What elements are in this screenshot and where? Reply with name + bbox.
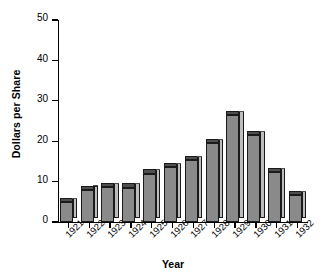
bar-top-face	[226, 111, 239, 115]
plot-area: 01020304050 1921192219231924192519261927…	[58, 20, 308, 222]
y-tick: 50	[52, 19, 58, 20]
y-tick-label: 0	[42, 214, 48, 225]
bar-top-edge	[176, 163, 181, 164]
bar-top-edge	[135, 183, 140, 184]
bar-front-face	[122, 188, 135, 222]
y-tick: 30	[52, 100, 58, 101]
bar-top-face	[268, 168, 281, 172]
bar	[289, 191, 306, 222]
bar	[226, 111, 243, 222]
bar-top-edge	[114, 183, 119, 184]
bar	[206, 139, 223, 222]
bar-front-face	[185, 160, 198, 222]
x-axis-title: Year	[38, 258, 308, 270]
bar	[101, 183, 118, 222]
bar-top-face	[164, 163, 177, 167]
bar	[122, 183, 139, 222]
bar-top-face	[143, 169, 156, 173]
bar-top-edge	[260, 131, 265, 132]
bar-front-face	[101, 187, 114, 222]
bar	[185, 156, 202, 222]
bar-side-face	[281, 168, 285, 218]
bar-front-face	[81, 190, 94, 222]
bar-top-edge	[197, 156, 202, 157]
bar-top-edge	[239, 111, 244, 112]
bar-side-face	[302, 191, 306, 218]
bar-front-face	[206, 143, 219, 222]
y-tick: 20	[52, 141, 58, 142]
y-tick-label: 50	[37, 12, 48, 23]
bar-side-face	[73, 198, 77, 218]
bar-front-face	[60, 202, 73, 222]
bar	[164, 163, 181, 222]
bar-top-face	[247, 131, 260, 135]
bar-side-face	[260, 131, 264, 218]
y-axis-line	[58, 20, 59, 222]
bar-side-face	[156, 169, 160, 217]
bar-top-face	[289, 191, 302, 195]
bar-front-face	[143, 174, 156, 222]
bar-side-face	[94, 186, 98, 218]
bar-top-face	[81, 186, 94, 190]
bar-top-face	[206, 139, 219, 143]
bar-front-face	[289, 195, 302, 222]
bar-top-edge	[156, 169, 161, 170]
bar-front-face	[268, 172, 281, 222]
bar-top-edge	[72, 198, 77, 199]
y-tick: 0	[52, 221, 58, 222]
bar-chart: Dollars per Share 01020304050 1921192219…	[0, 0, 327, 275]
bar	[60, 198, 77, 222]
bar-front-face	[247, 135, 260, 222]
bar-top-face	[60, 198, 73, 202]
bar-top-face	[185, 156, 198, 160]
bar-top-face	[122, 183, 135, 187]
y-tick-label: 40	[37, 53, 48, 64]
y-tick: 10	[52, 181, 58, 182]
y-tick-label: 10	[37, 174, 48, 185]
y-tick-label: 30	[37, 93, 48, 104]
bar-top-edge	[93, 185, 98, 186]
y-tick-label: 20	[37, 134, 48, 145]
bar-front-face	[164, 167, 177, 222]
bar-side-face	[135, 183, 139, 217]
y-tick: 40	[52, 60, 58, 61]
bar-top-edge	[218, 139, 223, 140]
bar	[81, 185, 98, 222]
bar-top-face	[101, 183, 114, 187]
bar-side-face	[198, 156, 202, 218]
bar-top-edge	[281, 168, 286, 169]
bar-front-face	[226, 115, 239, 222]
bar-side-face	[177, 163, 181, 218]
bar	[247, 131, 264, 222]
bar-top-edge	[301, 191, 306, 192]
bar-side-face	[219, 139, 223, 218]
bar	[268, 168, 285, 222]
bar	[143, 169, 160, 222]
y-axis-title: Dollars per Share	[10, 54, 22, 174]
bar-side-face	[114, 183, 118, 218]
bar-side-face	[239, 111, 243, 218]
